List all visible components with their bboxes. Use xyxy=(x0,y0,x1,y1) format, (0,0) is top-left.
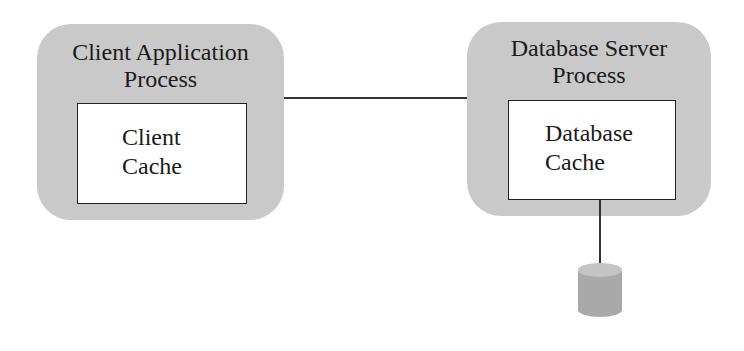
client-cache-box: Client Cache xyxy=(77,103,247,204)
database-cache-line2: Cache xyxy=(545,148,633,177)
database-cache-label: Database Cache xyxy=(545,119,633,177)
client-server-connector xyxy=(284,97,467,99)
server-process-title: Database Server Process xyxy=(467,35,711,89)
server-process: Database Server Process Database Cache xyxy=(467,22,711,216)
client-cache-line2: Cache xyxy=(122,152,182,181)
client-cache-line1: Client xyxy=(122,123,182,152)
client-process-title-line1: Client Application xyxy=(37,39,284,66)
client-process-title-line2: Process xyxy=(37,66,284,93)
client-cache-label: Client Cache xyxy=(122,123,182,181)
database-cache-box: Database Cache xyxy=(508,100,676,200)
client-process-title: Client Application Process xyxy=(37,39,284,93)
server-process-title-line2: Process xyxy=(467,62,711,89)
database-cache-line1: Database xyxy=(545,119,633,148)
client-process: Client Application Process Client Cache xyxy=(37,24,284,220)
server-process-title-line1: Database Server xyxy=(467,35,711,62)
database-cylinder-icon xyxy=(576,262,624,320)
